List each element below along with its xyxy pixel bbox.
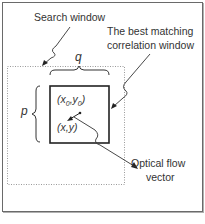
- search-window-pointer: [44, 27, 70, 64]
- current-point-label: (x,y): [57, 121, 77, 134]
- paren-close: ): [82, 93, 86, 105]
- correlation-window-pointer: [114, 54, 150, 106]
- best-match-label-line1: The best matching: [107, 25, 193, 38]
- optical-flow-label-line2-text: vector: [146, 171, 175, 183]
- q-brace: [50, 66, 109, 75]
- p-label: p: [21, 105, 28, 118]
- figure-caption: [0, 216, 205, 224]
- optical-flow-label-line2: vector: [146, 171, 175, 184]
- optical-flow-label-line1: Optical flow: [131, 157, 185, 170]
- optical-flow-pointer: [74, 117, 134, 166]
- origin-point: [79, 112, 82, 115]
- q-label: q: [75, 51, 82, 64]
- p-brace: [32, 86, 40, 142]
- origin-point-label: (x0,y0): [57, 93, 85, 110]
- best-match-label-line2: correlation window: [107, 39, 194, 52]
- search-window-label: Search window: [34, 11, 105, 24]
